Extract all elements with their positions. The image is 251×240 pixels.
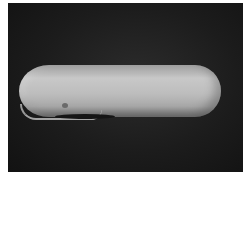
shell-shadow-edge [55,114,115,119]
shell-spot [62,103,68,108]
